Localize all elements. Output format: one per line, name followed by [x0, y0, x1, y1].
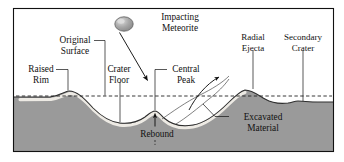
- label-impacting-meteorite-line1: Impacting: [161, 12, 199, 22]
- label-impacting-meteorite-line2: Meteorite: [162, 23, 198, 33]
- label-excavated-material-line1: Excavated: [244, 112, 283, 122]
- label-central-peak-line1: Central: [172, 64, 200, 74]
- label-crater-floor-line1: Crater: [107, 64, 131, 74]
- label-radial-ejecta-line2: Ejecta: [242, 43, 264, 53]
- label-radial-ejecta-line1: Radial: [241, 32, 265, 42]
- diagram-canvas: Original Surface Raised Rim Crater Floor…: [0, 0, 344, 162]
- label-secondary-crater-line2: Crater: [292, 43, 315, 53]
- label-rebound: Rebound: [140, 129, 174, 139]
- label-central-peak-line2: Peak: [177, 75, 195, 85]
- meteorite-icon: [115, 17, 133, 31]
- label-original-surface-line1: Original: [60, 35, 91, 45]
- label-original-surface-line2: Surface: [61, 46, 89, 56]
- label-crater-floor-line2: Floor: [109, 75, 130, 85]
- label-raised-rim-line1: Raised: [28, 64, 54, 74]
- label-raised-rim-line2: Rim: [33, 75, 50, 85]
- impact-crater-diagram: Original Surface Raised Rim Crater Floor…: [0, 0, 344, 162]
- meteorite-highlight-icon: [117, 19, 124, 24]
- label-excavated-material-line2: Material: [247, 123, 279, 133]
- label-secondary-crater-line1: Secondary: [284, 32, 322, 42]
